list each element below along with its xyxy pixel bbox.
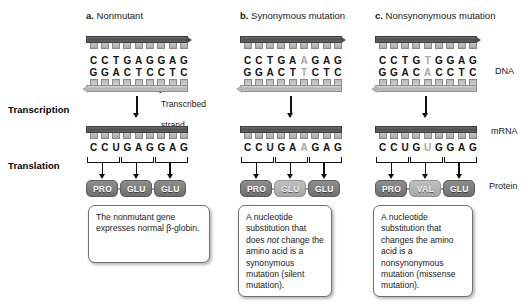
codon-bracket-c-0 bbox=[376, 157, 409, 163]
mrna-strand-a bbox=[86, 126, 188, 133]
dna-template-base-b-1: G bbox=[253, 67, 264, 79]
transcription-arrow-shaft-b bbox=[290, 96, 292, 114]
mrna-base-c-2: U bbox=[400, 142, 411, 154]
mrna-base-c-8: G bbox=[467, 142, 478, 154]
codon-bracket-a-1 bbox=[121, 157, 154, 163]
dna-template-base-b-3: C bbox=[276, 67, 287, 79]
translation-arrow-head-c-2 bbox=[456, 174, 462, 179]
dna-coding-strand-b bbox=[240, 36, 342, 43]
dna-coding-base-c-3: G bbox=[411, 55, 422, 67]
amino-acid-label-b-1: GLU bbox=[281, 184, 300, 194]
dna-coding-base-b-6: G bbox=[310, 55, 321, 67]
mrna-base-c-0: C bbox=[377, 142, 388, 154]
amino-acid-a-1: GLU bbox=[120, 180, 152, 197]
mrna-base-b-5: A bbox=[299, 142, 310, 154]
mrna-bar-b bbox=[240, 126, 342, 133]
dna-template-base-a-2: A bbox=[111, 67, 122, 79]
dna-bottom-bar-c bbox=[375, 85, 477, 92]
mrna-strand-c bbox=[375, 126, 477, 133]
mrna-base-a-0: C bbox=[88, 142, 99, 154]
dna-template-bases-a: GGACTCCTC bbox=[86, 67, 188, 79]
amino-acid-b-1: GLU bbox=[274, 180, 306, 197]
transcribed-strand-annotation: Transcribed strand bbox=[161, 88, 206, 130]
dna-bottom-arrowhead-a bbox=[82, 85, 88, 93]
mrna-base-a-3: G bbox=[122, 142, 133, 154]
dna-template-base-b-2: A bbox=[265, 67, 276, 79]
amino-acid-a-0: PRO bbox=[86, 180, 118, 197]
dna-template-base-c-0: G bbox=[377, 67, 388, 79]
mrna-base-a-7: A bbox=[167, 142, 178, 154]
codon-bracket-c-1 bbox=[410, 157, 443, 163]
dna-template-base-a-7: T bbox=[167, 67, 178, 79]
mrna-base-b-4: A bbox=[287, 142, 298, 154]
dna-coding-base-b-5: A bbox=[299, 55, 310, 67]
dna-top-bar-b bbox=[240, 36, 342, 43]
amino-acid-b-2: GLU bbox=[308, 180, 340, 197]
amino-acid-label-c-2: GLU bbox=[450, 184, 469, 194]
mrna-base-a-8: G bbox=[178, 142, 189, 154]
dna-coding-bases-a: CCTGAGGAG bbox=[86, 55, 188, 67]
molecule-label-dna: DNA bbox=[495, 66, 514, 76]
dna-template-base-c-6: C bbox=[445, 67, 456, 79]
dna-template-base-a-8: C bbox=[178, 67, 189, 79]
mutation-diagram: Transcription Translation DNA mRNA Prote… bbox=[0, 0, 526, 308]
mrna-bases-a: CCUGAGGAG bbox=[86, 142, 188, 154]
dna-coding-base-c-7: A bbox=[456, 55, 467, 67]
translation-arrow-head-a-1 bbox=[133, 174, 139, 179]
caption-box-b: A nucleotide substitution that does not … bbox=[238, 205, 332, 297]
dna-coding-strand-c bbox=[375, 36, 477, 43]
mrna-base-c-1: C bbox=[388, 142, 399, 154]
amino-acid-c-0: PRO bbox=[375, 180, 407, 197]
codon-bracket-a-2 bbox=[155, 157, 188, 163]
mrna-base-b-6: G bbox=[310, 142, 321, 154]
dna-top-bar-c bbox=[375, 36, 477, 43]
dna-coding-base-b-8: G bbox=[332, 55, 343, 67]
dna-coding-base-c-2: T bbox=[400, 55, 411, 67]
translation-arrow-head-b-2 bbox=[321, 174, 327, 179]
dna-coding-bases-b: CCTGAAGAG bbox=[240, 55, 342, 67]
mrna-base-c-4: U bbox=[422, 142, 433, 154]
dna-coding-base-a-2: T bbox=[111, 55, 122, 67]
translation-arrow-head-c-1 bbox=[422, 174, 428, 179]
panel-title-c: Nonsynonymous mutation bbox=[383, 10, 495, 21]
dna-coding-base-b-0: C bbox=[242, 55, 253, 67]
dna-bottom-arrowhead-c bbox=[371, 85, 377, 93]
dna-template-base-b-0: G bbox=[242, 67, 253, 79]
mrna-bases-b: CCUGAAGAG bbox=[240, 142, 342, 154]
dna-coding-base-c-0: C bbox=[377, 55, 388, 67]
codon-bracket-a-0 bbox=[87, 157, 120, 163]
codon-bracket-b-2 bbox=[309, 157, 342, 163]
dna-bottom-arrowhead-b bbox=[236, 85, 242, 93]
dna-coding-base-a-1: C bbox=[99, 55, 110, 67]
mrna-base-a-1: C bbox=[99, 142, 110, 154]
mrna-base-c-3: G bbox=[411, 142, 422, 154]
dna-template-base-a-5: C bbox=[145, 67, 156, 79]
dna-template-base-c-3: C bbox=[411, 67, 422, 79]
dna-template-base-b-4: T bbox=[287, 67, 298, 79]
dna-coding-base-a-4: A bbox=[133, 55, 144, 67]
dna-template-bases-b: GGACTTCTC bbox=[240, 67, 342, 79]
panel-header-a: a. Nonmutant bbox=[86, 10, 216, 22]
mrna-base-a-5: G bbox=[145, 142, 156, 154]
dna-template-base-c-5: C bbox=[434, 67, 445, 79]
caption-text-b-1: not bbox=[267, 235, 279, 245]
amino-acid-b-0: PRO bbox=[240, 180, 272, 197]
dna-coding-base-a-0: C bbox=[88, 55, 99, 67]
caption-text-a-0: The nonmutant gene expresses normal β-gl… bbox=[96, 212, 199, 233]
mrna-base-b-1: C bbox=[253, 142, 264, 154]
dna-template-base-b-6: C bbox=[310, 67, 321, 79]
dna-top-teeth-b bbox=[240, 43, 342, 49]
mrna-teeth-c bbox=[375, 133, 477, 139]
dna-coding-base-a-8: G bbox=[178, 55, 189, 67]
dna-coding-base-a-7: A bbox=[167, 55, 178, 67]
dna-template-strand-a bbox=[86, 85, 188, 92]
translation-arrow-head-c-0 bbox=[388, 174, 394, 179]
dna-coding-base-a-3: G bbox=[122, 55, 133, 67]
dna-template-base-a-4: T bbox=[133, 67, 144, 79]
panel-letter-a: a. bbox=[86, 10, 94, 21]
mrna-teeth-a bbox=[86, 133, 188, 139]
dna-template-base-c-8: C bbox=[467, 67, 478, 79]
caption-box-a: The nonmutant gene expresses normal β-gl… bbox=[88, 205, 210, 263]
amino-acid-c-1: VAL bbox=[409, 180, 441, 197]
transcription-arrow-head-b bbox=[287, 113, 293, 118]
